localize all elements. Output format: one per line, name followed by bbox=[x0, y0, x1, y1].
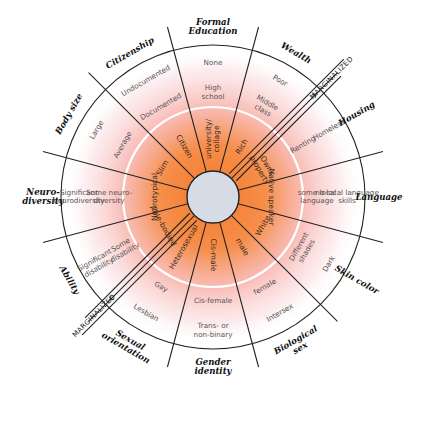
middle-label-line: school bbox=[201, 92, 224, 101]
privileged-label: Cis-male bbox=[209, 239, 218, 272]
marginalized-label-line: Trans- or bbox=[196, 321, 228, 330]
middle-label-line: High bbox=[205, 83, 222, 92]
middle-label-line: Cis-female bbox=[194, 296, 233, 305]
privileged-label-line: collage bbox=[212, 125, 221, 153]
privileged-label-line: Neurotypical bbox=[150, 173, 159, 221]
category-language-line: Language bbox=[354, 192, 403, 202]
category-formal-education-line: Education bbox=[188, 26, 238, 36]
marginalized-label-line: None bbox=[204, 58, 223, 67]
marginalized-label: Trans- ornon-binary bbox=[194, 321, 234, 339]
category-gender-identity-line: identity bbox=[194, 366, 232, 376]
middle-label: Cis-female bbox=[194, 296, 233, 305]
middle-label: Highschool bbox=[201, 83, 224, 101]
category-language: Language bbox=[354, 192, 403, 202]
privileged-label-line: Cis-male bbox=[209, 239, 218, 272]
category-housing: Housing bbox=[336, 99, 377, 128]
category-formal-education: FormalEducation bbox=[188, 17, 238, 36]
category-wealth: Wealth bbox=[279, 40, 313, 65]
category-neuro-diversity: Neuro-diversity bbox=[22, 187, 64, 206]
privileged-label: Neurotypical bbox=[150, 173, 159, 221]
category-neuro-diversity-line: diversity bbox=[22, 196, 64, 206]
privilege-wheel-diagram: MARGINALIZEDMARGINALIZED university/coll… bbox=[0, 0, 424, 434]
category-gender-identity: Genderidentity bbox=[194, 357, 232, 376]
middle-label-line: language bbox=[300, 196, 334, 205]
category-wealth-line: Wealth bbox=[279, 40, 313, 65]
category-housing-line: Housing bbox=[336, 99, 377, 128]
marginalized-label: MARGINALIZED bbox=[309, 55, 355, 101]
center-hub bbox=[187, 171, 239, 223]
marginalized-label-line: skills bbox=[338, 196, 356, 205]
marginalized-label: None bbox=[204, 58, 223, 67]
marginalized-label-line: non-binary bbox=[194, 330, 234, 339]
